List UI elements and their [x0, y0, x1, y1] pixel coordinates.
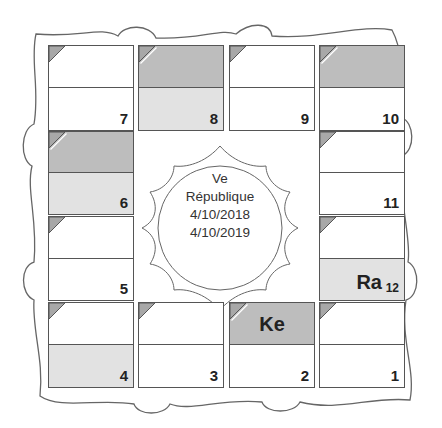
house-cell-6: 6 — [48, 131, 134, 215]
corner-triangle-icon — [49, 132, 67, 150]
house-number: 7 — [120, 110, 128, 127]
house-number: 8 — [210, 110, 218, 127]
center-line-date-start: 4/10/2018 — [150, 206, 290, 224]
house-number: 4 — [120, 367, 128, 384]
house-cell-8: 8 — [138, 45, 224, 131]
corner-triangle-icon — [320, 217, 338, 235]
corner-triangle-icon — [320, 303, 338, 321]
house-number: 3 — [210, 367, 218, 384]
center-line-subtitle: République — [150, 188, 290, 206]
house-cell-10: 10 — [319, 45, 405, 131]
house-number: 6 — [120, 194, 128, 211]
corner-triangle-icon — [230, 46, 248, 64]
house-number: 5 — [120, 280, 128, 297]
center-line-date-end: 4/10/2019 — [150, 224, 290, 242]
house-cell-3: 3 — [138, 302, 224, 388]
corner-triangle-icon — [49, 46, 67, 64]
corner-triangle-icon — [49, 303, 67, 321]
house-cell-5: 5 — [48, 216, 134, 301]
corner-triangle-icon — [139, 46, 157, 64]
house-number: 9 — [301, 110, 309, 127]
house-number: 12 — [386, 281, 399, 295]
house-number: 10 — [382, 110, 399, 127]
house-cell-9: 9 — [229, 45, 315, 131]
house-cell-2: 2Ke — [229, 302, 315, 388]
house-cell-4: 4 — [48, 302, 134, 388]
corner-triangle-icon — [139, 303, 157, 321]
planet-label: Ra — [356, 271, 382, 294]
house-number: 11 — [383, 194, 399, 211]
corner-triangle-icon — [49, 217, 67, 235]
house-cell-12: 12Ra — [319, 216, 405, 301]
planet-label: Ke — [230, 313, 314, 336]
corner-triangle-icon — [320, 46, 338, 64]
house-cell-1: 1 — [319, 302, 405, 388]
house-number: 1 — [391, 367, 399, 384]
center-line-title: Ve — [150, 170, 290, 188]
corner-triangle-icon — [320, 132, 338, 150]
house-cell-11: 11 — [319, 131, 405, 215]
house-cell-7: 7 — [48, 45, 134, 131]
chart-center-label: Ve République 4/10/2018 4/10/2019 — [150, 170, 290, 242]
house-number: 2 — [301, 367, 309, 384]
